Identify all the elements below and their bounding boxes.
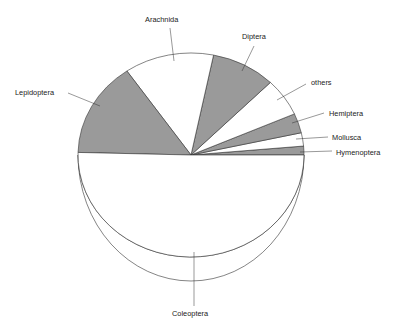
label-hymenoptera: Hymenoptera [336,148,381,157]
label-arachnida: Arachnida [145,15,179,24]
leader-line-hymenoptera [300,151,332,152]
leader-line-others [277,84,306,100]
label-lepidoptera: Lepidoptera [15,88,55,97]
pie-chart: HymenopteraMolluscaHemipteraothersDipter… [0,0,404,331]
leader-line-hemiptera [292,113,324,123]
pie-slices [78,53,304,257]
leader-line-lepidoptera [68,93,100,106]
label-others: others [311,78,332,87]
label-diptera: Diptera [242,32,267,41]
label-coleoptera: Coleoptera [172,309,209,318]
label-hemiptera: Hemiptera [329,109,364,118]
label-mollusca: Mollusca [332,133,362,142]
